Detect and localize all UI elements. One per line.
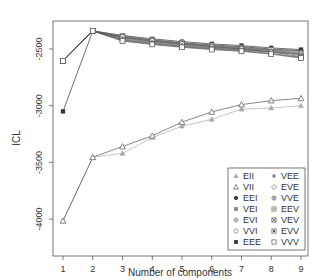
marker-circle-plus	[272, 196, 276, 200]
legend-label: EVI	[243, 215, 258, 225]
x-tick-label: 1	[60, 264, 65, 274]
legend-label: EEV	[281, 204, 299, 214]
legend-label: EVV	[281, 226, 299, 236]
marker-open-square	[209, 47, 214, 52]
x-tick-label: 3	[120, 264, 125, 274]
x-tick-label: 8	[269, 264, 274, 274]
marker-open-circle	[234, 229, 238, 233]
marker-asterisk	[272, 174, 276, 178]
marker-open-square	[120, 39, 125, 44]
x-tick-label: 9	[298, 264, 303, 274]
legend-label: EVE	[281, 182, 299, 192]
y-tick-label: -2500	[34, 37, 44, 60]
marker-open-square	[269, 52, 274, 57]
marker-square-filled-inner	[272, 229, 276, 233]
legend-label: VVI	[243, 226, 258, 236]
icl-chart: 123456789-4000-3500-3000-2500 Number of …	[0, 0, 325, 280]
marker-square-plus	[272, 207, 276, 211]
marker-open-square	[299, 56, 304, 61]
marker-open-square	[90, 28, 95, 33]
x-axis-title: Number of components	[128, 267, 232, 278]
legend: EIIVIIEEIVEIEVIVVIEEEVEEEVEVVEEEVVEVEVVV…	[228, 168, 305, 250]
marker-filled-square-gray	[234, 207, 238, 211]
legend-label: VEV	[281, 215, 299, 225]
y-axis-title: ICL	[11, 130, 22, 146]
y-tick-label: -4000	[34, 208, 44, 231]
marker-filled-circle	[234, 196, 238, 200]
marker-open-square	[150, 42, 155, 47]
y-tick-label: -3000	[34, 94, 44, 117]
legend-label: VVE	[281, 193, 299, 203]
y-tick-label: -3500	[34, 151, 44, 174]
legend-label: VEE	[281, 171, 299, 181]
legend-label: VII	[243, 182, 254, 192]
marker-square-x	[272, 218, 276, 222]
marker-open-square	[180, 45, 185, 50]
x-tick-label: 7	[239, 264, 244, 274]
legend-label: VEI	[243, 204, 258, 214]
marker-open-square	[61, 59, 66, 64]
marker-filled-square	[61, 109, 65, 113]
marker-filled-square	[234, 240, 238, 244]
marker-open-square	[239, 49, 244, 54]
marker-circle-plus-gray	[234, 218, 238, 222]
legend-label: EEI	[243, 193, 258, 203]
marker-open-square	[272, 240, 276, 244]
legend-label: EEE	[243, 237, 261, 247]
legend-label: EII	[243, 171, 254, 181]
x-tick-label: 2	[90, 264, 95, 274]
legend-label: VVV	[281, 237, 299, 247]
